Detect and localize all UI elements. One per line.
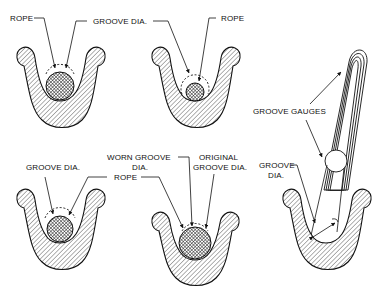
panel-bottom-left: GROOVE DIA. [17, 163, 107, 270]
groove-gauges-leader [306, 120, 322, 157]
rope-leader [34, 18, 55, 68]
original-groove-dia-leader [206, 174, 214, 228]
gauge-shaft [310, 165, 327, 240]
label-rope: ROPE [221, 14, 244, 23]
rope-circle [179, 227, 211, 259]
label-groove-dia-line1: GROOVE [259, 161, 295, 170]
label-original-groove-dia-line1: ORIGINAL [199, 153, 238, 162]
label-groove-gauges: GROOVE GAUGES [253, 107, 326, 116]
label-original-groove-dia-line2: GROOVE DIA. [193, 163, 247, 172]
groove-dia-leader [66, 21, 87, 68]
label-worn-groove-dia-line1: WORN GROOVE [107, 153, 171, 162]
label-groove-dia: GROOVE DIA. [93, 17, 147, 26]
label-rope: ROPE [114, 173, 137, 182]
rope-circle [46, 72, 74, 100]
groove-dia-dimension [313, 223, 335, 237]
rope-leader [199, 18, 216, 81]
sheave-cross-section [283, 189, 371, 269]
label-rope: ROPE [10, 14, 33, 23]
groove-dia-leader [45, 177, 53, 214]
worn-groove-dia-leader [178, 157, 192, 226]
rope-circle [186, 83, 204, 101]
label-groove-dia: GROOVE DIA. [26, 163, 80, 172]
panel-bottom-middle: ROPE WORN GROOVE DIA. ORIGINAL GROOVE DI… [107, 153, 247, 286]
panel-top-middle: ROPE [152, 14, 244, 128]
groove-dia-arc [332, 219, 338, 222]
panel-right-gauges: GROOVE GAUGES GROOVE DIA. [253, 50, 371, 270]
label-worn-groove-dia-line2: DIA. [132, 163, 148, 172]
sheave-groove-diagram: ROPE GROOVE DIA. ROPE [0, 0, 387, 301]
rope-circle [47, 216, 73, 242]
groove-gauges-leader [310, 72, 341, 104]
panel-top-left: ROPE GROOVE DIA. [10, 14, 147, 128]
label-groove-dia-line2: DIA. [268, 171, 284, 180]
